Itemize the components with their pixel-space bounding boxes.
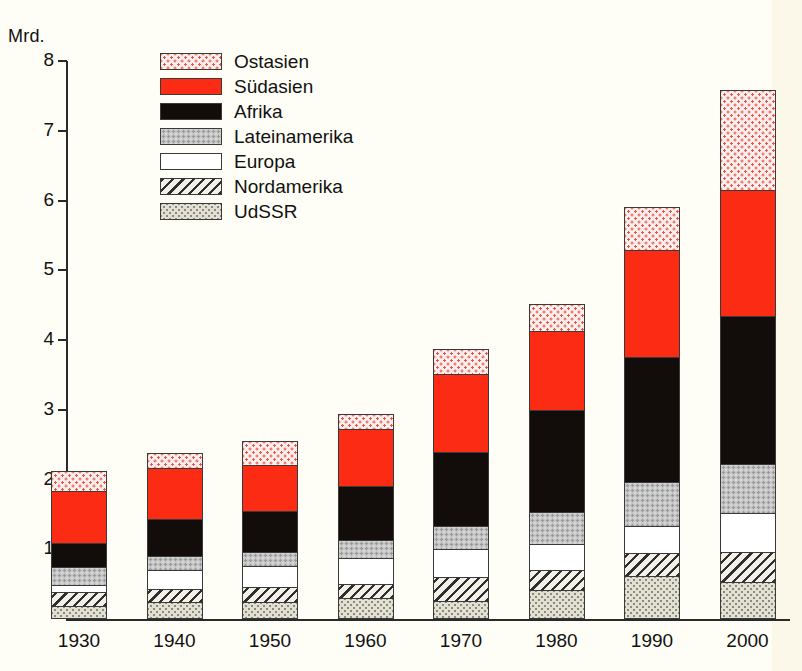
bar-segment-1950-nordamerika[interactable] <box>243 588 297 603</box>
bar-segment-1990-ostasien[interactable] <box>625 208 679 251</box>
bar-segment-1960-nordamerika[interactable] <box>339 585 393 599</box>
bar-segment-1930-afrika[interactable] <box>52 544 106 568</box>
x-axis-label-1990: 1990 <box>612 630 692 652</box>
bar-1950[interactable] <box>242 441 298 619</box>
bar-1980[interactable] <box>529 304 585 619</box>
bar-segment-1970-udssr[interactable] <box>434 602 488 619</box>
bar-segment-1930-nordamerika[interactable] <box>52 593 106 607</box>
bar-segment-1930-udssr[interactable] <box>52 607 106 619</box>
bar-segment-1930-suedasien[interactable] <box>52 492 106 544</box>
bar-segment-1980-ostasien[interactable] <box>530 305 584 332</box>
x-axis-label-1950: 1950 <box>230 630 310 652</box>
bar-segment-1930-europa[interactable] <box>52 586 106 593</box>
bar-segment-1960-udssr[interactable] <box>339 599 393 619</box>
bar-segment-1950-europa[interactable] <box>243 567 297 588</box>
bar-segment-1990-europa[interactable] <box>625 527 679 554</box>
bar-1970[interactable] <box>433 349 489 619</box>
bar-segment-1940-nordamerika[interactable] <box>148 590 202 603</box>
plot-area: 19301940195019601970198019902000 <box>0 0 802 671</box>
bar-segment-1980-afrika[interactable] <box>530 411 584 513</box>
bar-segment-1940-ostasien[interactable] <box>148 454 202 469</box>
bar-segment-1950-afrika[interactable] <box>243 512 297 553</box>
bar-segment-1950-suedasien[interactable] <box>243 466 297 512</box>
bar-segment-1930-lateinamerika[interactable] <box>52 568 106 586</box>
x-axis-label-1930: 1930 <box>39 630 119 652</box>
bar-segment-1990-nordamerika[interactable] <box>625 554 679 578</box>
bar-segment-1940-europa[interactable] <box>148 571 202 590</box>
x-axis-label-1970: 1970 <box>421 630 501 652</box>
bar-segment-2000-europa[interactable] <box>721 514 775 553</box>
bar-segment-1960-lateinamerika[interactable] <box>339 541 393 559</box>
bar-segment-1970-nordamerika[interactable] <box>434 578 488 602</box>
bar-segment-1950-lateinamerika[interactable] <box>243 553 297 567</box>
bar-segment-2000-nordamerika[interactable] <box>721 553 775 583</box>
bar-segment-1990-afrika[interactable] <box>625 358 679 483</box>
x-axis-label-1980: 1980 <box>517 630 597 652</box>
bar-segment-1980-udssr[interactable] <box>530 591 584 619</box>
bar-segment-1980-europa[interactable] <box>530 545 584 572</box>
bar-segment-1980-suedasien[interactable] <box>530 332 584 411</box>
bar-segment-1940-lateinamerika[interactable] <box>148 557 202 572</box>
bar-segment-1990-suedasien[interactable] <box>625 251 679 358</box>
bar-1990[interactable] <box>624 207 680 619</box>
bar-segment-1960-ostasien[interactable] <box>339 415 393 430</box>
bar-segment-1950-ostasien[interactable] <box>243 442 297 466</box>
bar-segment-2000-ostasien[interactable] <box>721 91 775 191</box>
bar-segment-2000-lateinamerika[interactable] <box>721 465 775 514</box>
bar-segment-1980-nordamerika[interactable] <box>530 571 584 591</box>
x-axis-label-1940: 1940 <box>135 630 215 652</box>
bar-segment-1980-lateinamerika[interactable] <box>530 513 584 545</box>
bar-1940[interactable] <box>147 453 203 619</box>
bar-segment-1990-udssr[interactable] <box>625 577 679 619</box>
bar-segment-2000-afrika[interactable] <box>721 317 775 465</box>
bar-segment-1970-ostasien[interactable] <box>434 350 488 375</box>
bar-2000[interactable] <box>720 90 776 619</box>
bar-segment-1970-lateinamerika[interactable] <box>434 527 488 549</box>
bar-segment-1960-europa[interactable] <box>339 559 393 585</box>
x-axis-label-2000: 2000 <box>708 630 788 652</box>
bar-segment-1970-suedasien[interactable] <box>434 375 488 452</box>
bar-1930[interactable] <box>51 471 107 619</box>
bar-segment-1970-europa[interactable] <box>434 550 488 579</box>
x-axis-label-1960: 1960 <box>326 630 406 652</box>
population-stacked-bar-chart: Mrd. 87654321 OstasienSüdasienAfrikaLate… <box>0 0 802 671</box>
bar-segment-1950-udssr[interactable] <box>243 603 297 619</box>
bar-segment-1940-udssr[interactable] <box>148 603 202 619</box>
bar-segment-1960-suedasien[interactable] <box>339 430 393 487</box>
bar-1960[interactable] <box>338 414 394 619</box>
bar-segment-2000-suedasien[interactable] <box>721 191 775 317</box>
bar-segment-1930-ostasien[interactable] <box>52 472 106 492</box>
bar-segment-1940-afrika[interactable] <box>148 520 202 556</box>
bar-segment-1960-afrika[interactable] <box>339 487 393 541</box>
bar-segment-1970-afrika[interactable] <box>434 453 488 528</box>
bar-segment-1940-suedasien[interactable] <box>148 469 202 520</box>
bar-segment-1990-lateinamerika[interactable] <box>625 483 679 528</box>
bar-segment-2000-udssr[interactable] <box>721 583 775 619</box>
